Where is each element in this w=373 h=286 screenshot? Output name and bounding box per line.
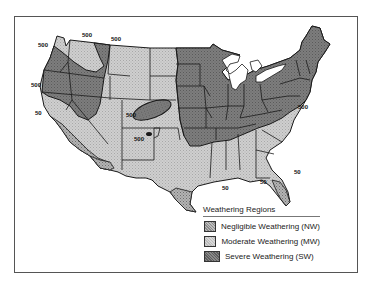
svg-text:50: 50 xyxy=(222,185,229,191)
svg-text:50: 50 xyxy=(35,110,42,116)
legend-label: Negligible Weathering (NW) xyxy=(221,222,320,231)
svg-text:500: 500 xyxy=(38,42,49,48)
legend-title: Weathering Regions xyxy=(203,205,320,217)
svg-text:50: 50 xyxy=(294,169,301,175)
svg-text:50: 50 xyxy=(260,179,267,185)
legend: Weathering Regions Negligible Weathering… xyxy=(203,205,320,265)
region-negligible-florida xyxy=(272,180,290,206)
svg-text:500: 500 xyxy=(82,32,93,38)
svg-text:500: 500 xyxy=(126,112,137,118)
svg-text:500: 500 xyxy=(31,82,42,88)
svg-text:500: 500 xyxy=(134,136,145,142)
legend-item-severe: Severe Weathering (SW) xyxy=(203,250,320,262)
svg-text:500: 500 xyxy=(298,104,309,110)
swatch-moderate xyxy=(204,236,216,247)
legend-label: Severe Weathering (SW) xyxy=(225,252,314,261)
legend-label: Moderate Weathering (MW) xyxy=(221,237,320,246)
legend-item-moderate: Moderate Weathering (MW) xyxy=(203,235,320,247)
swatch-negligible xyxy=(204,221,216,232)
swatch-severe xyxy=(204,251,220,262)
svg-text:500: 500 xyxy=(111,36,122,42)
region-severe-newmexico xyxy=(146,132,152,136)
legend-item-negligible: Negligible Weathering (NW) xyxy=(203,220,320,232)
